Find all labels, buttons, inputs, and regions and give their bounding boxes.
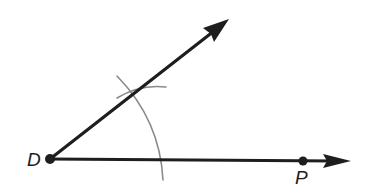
- label-point-d: D: [27, 150, 41, 169]
- ray-dp: [50, 159, 335, 161]
- label-point-p: P: [295, 168, 308, 187]
- large-construction-arc: [117, 76, 163, 180]
- ray-upper: [50, 31, 214, 159]
- point-p: [299, 157, 308, 166]
- point-d: [45, 154, 55, 164]
- ray-dp-arrowhead: [323, 154, 351, 168]
- angle-construction-diagram: [0, 0, 371, 195]
